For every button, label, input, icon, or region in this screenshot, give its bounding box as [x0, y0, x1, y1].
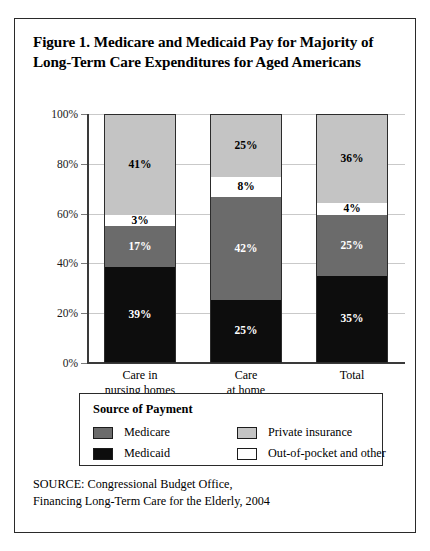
- legend-swatch: [237, 448, 257, 460]
- stacked-bar[interactable]: 36%4%25%35%: [316, 114, 388, 363]
- bar-segment[interactable]: 39%: [105, 267, 175, 362]
- plot-area: 0%20%40%60%80%100% 41%3%17%39%25%8%42%25…: [87, 114, 405, 363]
- legend-item[interactable]: Private insurance: [237, 425, 352, 440]
- bar-column: 36%4%25%35%: [316, 114, 388, 363]
- bar-segment[interactable]: 35%: [317, 276, 387, 362]
- bar-segment-label: 17%: [129, 241, 152, 253]
- legend-label: Medicaid: [124, 446, 170, 461]
- legend-label: Out-of-pocket and other: [268, 446, 386, 461]
- legend-swatch: [93, 448, 113, 460]
- bar-segment[interactable]: 17%: [105, 226, 175, 267]
- bar-segment-label: 4%: [343, 203, 360, 215]
- x-axis-label-line: Care: [193, 368, 299, 383]
- legend-item[interactable]: Out-of-pocket and other: [237, 446, 386, 461]
- bar-segment-label: 25%: [341, 240, 364, 252]
- bar-column: 25%8%42%25%: [210, 114, 282, 363]
- bar-segment-label: 39%: [129, 309, 152, 321]
- x-axis-label: Total: [299, 368, 405, 383]
- figure-title-line-2: Long-Term Care Expenditures for Aged Ame…: [33, 52, 399, 72]
- bar-segment[interactable]: 25%: [317, 215, 387, 276]
- bar-column: 41%3%17%39%: [104, 114, 176, 363]
- y-axis-line: [87, 114, 89, 363]
- legend-title: Source of Payment: [93, 402, 193, 417]
- x-axis-label-line: Total: [299, 368, 405, 383]
- bar-segment[interactable]: 25%: [211, 300, 281, 362]
- bar-segment[interactable]: 3%: [105, 215, 175, 227]
- legend-swatch: [237, 427, 257, 439]
- bar-segment[interactable]: 4%: [317, 203, 387, 215]
- bar-segment-label: 36%: [341, 153, 364, 165]
- bar-segment-label: 41%: [129, 159, 152, 171]
- bar-segment-label: 25%: [235, 140, 258, 152]
- legend-label: Medicare: [124, 425, 170, 440]
- figure-title-line-1: Figure 1. Medicare and Medicaid Pay for …: [33, 32, 399, 52]
- source-note-line-1: SOURCE: Congressional Budget Office,: [33, 476, 401, 493]
- legend-item[interactable]: Medicaid: [93, 446, 170, 461]
- source-note: SOURCE: Congressional Budget Office, Fin…: [33, 476, 401, 510]
- bar-segment-label: 3%: [131, 215, 148, 227]
- bar-segment[interactable]: 25%: [211, 115, 281, 177]
- bar-segment-label: 35%: [341, 313, 364, 325]
- bar-segment[interactable]: 36%: [317, 115, 387, 203]
- y-axis-tick-label: 40%: [57, 257, 78, 269]
- y-axis-tick-label: 60%: [57, 208, 78, 220]
- stacked-bar[interactable]: 25%8%42%25%: [210, 114, 282, 363]
- legend-item[interactable]: Medicare: [93, 425, 170, 440]
- bar-segment-label: 8%: [237, 181, 254, 193]
- y-axis-tick-label: 0%: [63, 357, 78, 369]
- bar-segment-label: 42%: [235, 243, 258, 255]
- y-axis-tick-label: 80%: [57, 158, 78, 170]
- figure-title: Figure 1. Medicare and Medicaid Pay for …: [33, 32, 399, 72]
- legend: Source of Payment MedicarePrivate insura…: [79, 393, 383, 466]
- x-axis-label-line: Care in: [87, 368, 193, 383]
- stacked-bar[interactable]: 41%3%17%39%: [104, 114, 176, 363]
- bar-segment[interactable]: 42%: [211, 197, 281, 301]
- bar-segment-label: 25%: [235, 325, 258, 337]
- bar-segment[interactable]: 8%: [211, 177, 281, 197]
- bar-segment[interactable]: 41%: [105, 115, 175, 215]
- source-note-line-2: Financing Long-Term Care for the Elderly…: [33, 493, 401, 510]
- legend-swatch: [93, 427, 113, 439]
- y-axis-tick-label: 100%: [51, 108, 78, 120]
- legend-label: Private insurance: [268, 425, 352, 440]
- y-axis-tick-label: 20%: [57, 307, 78, 319]
- figure-frame: Figure 1. Medicare and Medicaid Pay for …: [14, 18, 416, 533]
